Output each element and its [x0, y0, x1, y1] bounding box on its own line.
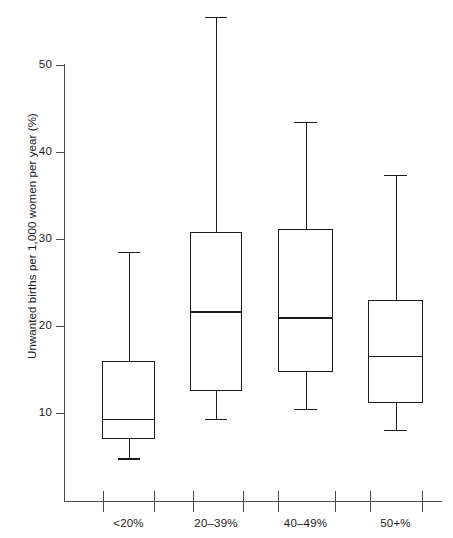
box-4 [368, 300, 423, 403]
upper-cap-2 [205, 17, 227, 18]
lower-cap-3 [294, 409, 317, 410]
median-line-2 [190, 311, 242, 312]
y-tick-label-wrap-10: 10 [22, 407, 52, 419]
x-tick-3 [243, 491, 244, 512]
y-tick-label-wrap-50: 50 [22, 59, 52, 71]
upper-whisker-2 [216, 17, 217, 232]
lower-cap-2 [205, 419, 227, 420]
x-axis-label-3: 40–49% [284, 517, 327, 529]
x-tick-4 [278, 491, 279, 512]
x-tick-1 [154, 491, 155, 512]
median-line-3 [278, 317, 333, 318]
y-tick-50 [56, 65, 65, 66]
boxplot-chart: 1020304050 Unwanted births per 1,000 wom… [0, 0, 453, 538]
x-tick-0 [103, 491, 104, 512]
y-axis-line [64, 64, 65, 501]
upper-cap-1 [118, 252, 140, 253]
y-tick-label-10: 10 [22, 407, 52, 419]
y-axis-title: Unwanted births per 1,000 women per year… [26, 76, 38, 396]
x-tick-6 [370, 491, 371, 512]
upper-whisker-3 [306, 122, 307, 229]
upper-cap-4 [384, 175, 407, 176]
upper-cap-3 [294, 122, 317, 123]
box-3 [278, 229, 333, 373]
lower-whisker-1 [129, 439, 130, 458]
y-tick-label-50: 50 [22, 59, 52, 71]
y-tick-30 [56, 239, 65, 240]
median-line-4 [368, 356, 423, 357]
lower-whisker-3 [306, 372, 307, 409]
x-axis-label-2: 20–39% [194, 517, 237, 529]
x-tick-7 [422, 491, 423, 512]
x-tick-2 [193, 491, 194, 512]
box-1 [102, 361, 155, 439]
y-tick-20 [56, 326, 65, 327]
lower-cap-1 [118, 458, 140, 459]
lower-cap-4 [384, 430, 407, 431]
lower-whisker-4 [396, 403, 397, 430]
lower-whisker-2 [216, 391, 217, 419]
x-axis-label-1: <20% [113, 517, 144, 529]
x-tick-5 [335, 491, 336, 512]
y-tick-40 [56, 152, 65, 153]
x-axis-label-4: 50+% [380, 517, 411, 529]
median-line-1 [102, 419, 155, 420]
upper-whisker-4 [396, 175, 397, 300]
x-axis-line [64, 501, 442, 502]
upper-whisker-1 [129, 252, 130, 361]
y-tick-10 [56, 413, 65, 414]
